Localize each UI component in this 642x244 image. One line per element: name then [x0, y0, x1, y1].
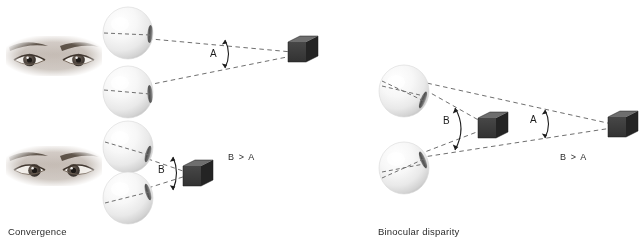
angle-label-b-disparity: B: [443, 115, 450, 126]
eyeball-lower-disparity: [379, 142, 429, 194]
eyeball-upper-near: [103, 121, 153, 173]
angle-marker-a-disparity: [542, 110, 549, 138]
angle-label-a-convergence: A: [210, 48, 217, 59]
panel-binocular-disparity: [379, 65, 638, 194]
figure-depth-cues: A B B A B > A B > A Convergence Binocula…: [0, 0, 642, 244]
cube-near-disparity: [478, 112, 508, 138]
cube-far-disparity: [608, 111, 638, 137]
angle-marker-b-disparity: [453, 108, 461, 150]
angle-marker-b-bottom: [170, 157, 177, 190]
eyeball-lower-near: [103, 172, 153, 224]
angle-marker-a-top: [222, 40, 229, 68]
eye-photo-converged: [6, 146, 102, 186]
inequality-convergence: B > A: [228, 152, 255, 162]
eyeball-lower-far: [103, 66, 153, 118]
panel-convergence: [103, 7, 318, 224]
cube-near-bottom: [183, 160, 213, 186]
eyeball-upper-disparity: [379, 65, 429, 117]
eye-photo-relaxed: [6, 36, 102, 76]
eyeball-upper-far: [103, 7, 153, 59]
angle-label-a-disparity: A: [530, 114, 537, 125]
inequality-disparity: B > A: [560, 152, 587, 162]
angle-label-b-convergence: B: [158, 164, 165, 175]
cube-far-top: [288, 36, 318, 62]
convergence-far-row: [103, 7, 318, 118]
caption-binocular-disparity: Binocular disparity: [378, 226, 459, 237]
caption-convergence: Convergence: [8, 226, 67, 237]
